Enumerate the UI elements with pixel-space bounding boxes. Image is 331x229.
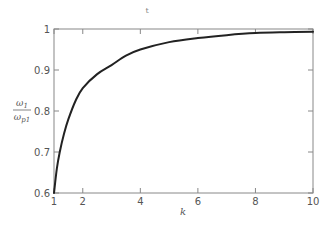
x-tick-label: 6 xyxy=(195,196,201,207)
top-mark: t xyxy=(145,6,149,15)
plot-frame xyxy=(54,29,313,193)
x-tick-label: 1 xyxy=(51,196,57,207)
y-tick-label: 0.9 xyxy=(34,65,50,76)
svg-text:ωp1: ωp1 xyxy=(14,112,30,124)
y-axis-label: ω1 ωp1 xyxy=(13,98,31,124)
y-tick-label: 0.6 xyxy=(34,188,50,199)
axes-box xyxy=(54,29,313,193)
y-label-denominator-sub: p1 xyxy=(21,116,30,124)
series-line xyxy=(54,32,313,193)
data-series xyxy=(54,32,313,193)
x-axis-label: k xyxy=(180,206,186,217)
x-tick-label: 8 xyxy=(252,196,258,207)
y-label-numerator-sub: 1 xyxy=(23,102,27,110)
y-tick-label: 0.7 xyxy=(34,147,50,158)
y-tick-label: 1 xyxy=(44,24,50,35)
x-tick-label: 10 xyxy=(307,196,320,207)
line-chart: 1246810 0.60.70.80.91 t k ω1 ωp1 xyxy=(0,0,331,229)
svg-text:ω1: ω1 xyxy=(16,98,28,110)
y-axis-ticks: 0.60.70.80.91 xyxy=(34,24,313,199)
y-tick-label: 0.8 xyxy=(34,106,50,117)
x-axis-ticks: 1246810 xyxy=(51,29,320,207)
x-tick-label: 2 xyxy=(80,196,86,207)
x-tick-label: 4 xyxy=(137,196,143,207)
